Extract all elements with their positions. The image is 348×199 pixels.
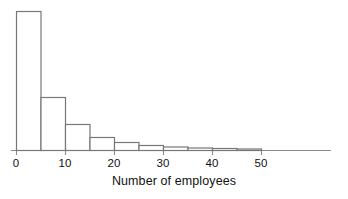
histogram-bar [17,12,42,151]
histogram-plot [0,0,348,199]
x-tick-label-30: 30 [156,157,169,170]
histogram-bar [115,143,140,151]
histogram-bar [139,146,164,151]
histogram-bar [164,147,189,151]
x-axis-ticks [17,151,262,156]
x-tick-label-20: 20 [107,157,120,170]
x-tick-label-50: 50 [254,157,267,170]
histogram-bar [66,125,91,151]
x-tick-label-10: 10 [58,157,71,170]
histogram-bars [17,12,262,151]
histogram-bar [213,149,238,151]
x-tick-label-40: 40 [205,157,218,170]
histogram-bar [188,148,213,151]
histogram-bar [237,149,262,151]
histogram-bar [90,138,115,151]
x-axis-title: Number of employees [112,174,236,188]
histogram-figure: 0 10 20 30 40 50 Number of employees [0,0,348,199]
histogram-bar [41,98,66,151]
x-tick-label-0: 0 [13,157,20,170]
page-caption-fragment [4,190,344,199]
